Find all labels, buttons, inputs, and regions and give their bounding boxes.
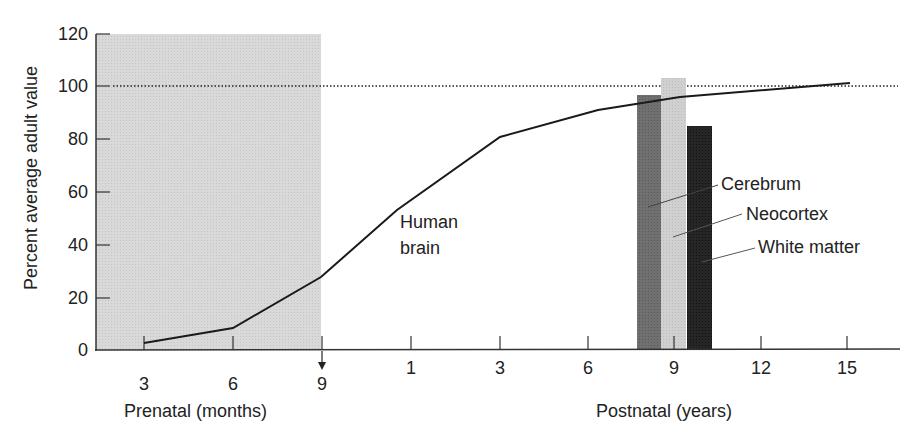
y-tick-80: 80	[68, 129, 88, 149]
bar-cerebrum	[637, 95, 661, 350]
y-tick-0: 0	[78, 340, 88, 360]
x-tick-postnatal-9: 9	[669, 358, 679, 378]
x-tick-postnatal-15: 15	[837, 358, 857, 378]
prenatal-axis-title: Prenatal (months)	[124, 401, 267, 421]
y-tick-40: 40	[68, 235, 88, 255]
human-brain-label-line1: Human	[400, 212, 458, 232]
white-matter-label: White matter	[758, 237, 860, 257]
x-tick-prenatal-3: 3	[139, 374, 149, 394]
prenatal-shaded-region	[96, 34, 321, 350]
x-tick-prenatal-6: 6	[228, 374, 238, 394]
bar-white-matter	[687, 126, 712, 350]
x-tick-postnatal-12: 12	[751, 358, 771, 378]
x-axis	[95, 349, 900, 350]
y-tick-120: 120	[58, 24, 88, 44]
y-tick-60: 60	[68, 182, 88, 202]
x-tick-postnatal-6: 6	[583, 358, 593, 378]
human-brain-label-line2: brain	[400, 238, 440, 258]
x-tick-prenatal-9: 9	[317, 374, 327, 394]
x-tick-postnatal-1: 1	[406, 358, 416, 378]
y-tick-20: 20	[68, 288, 88, 308]
birth-arrow-icon	[318, 351, 326, 370]
brain-growth-chart: 0 20 40 60 80 100 120 Percent average ad…	[0, 0, 919, 445]
y-tick-labels: 0 20 40 60 80 100 120	[58, 24, 88, 360]
neocortex-label: Neocortex	[746, 204, 828, 224]
bar-neocortex	[661, 78, 686, 350]
y-tick-100: 100	[58, 76, 88, 96]
y-axis-title: Percent average adult value	[21, 66, 41, 290]
postnatal-axis-title: Postnatal (years)	[596, 401, 732, 421]
x-tick-postnatal-3: 3	[495, 358, 505, 378]
cerebrum-label: Cerebrum	[721, 174, 801, 194]
